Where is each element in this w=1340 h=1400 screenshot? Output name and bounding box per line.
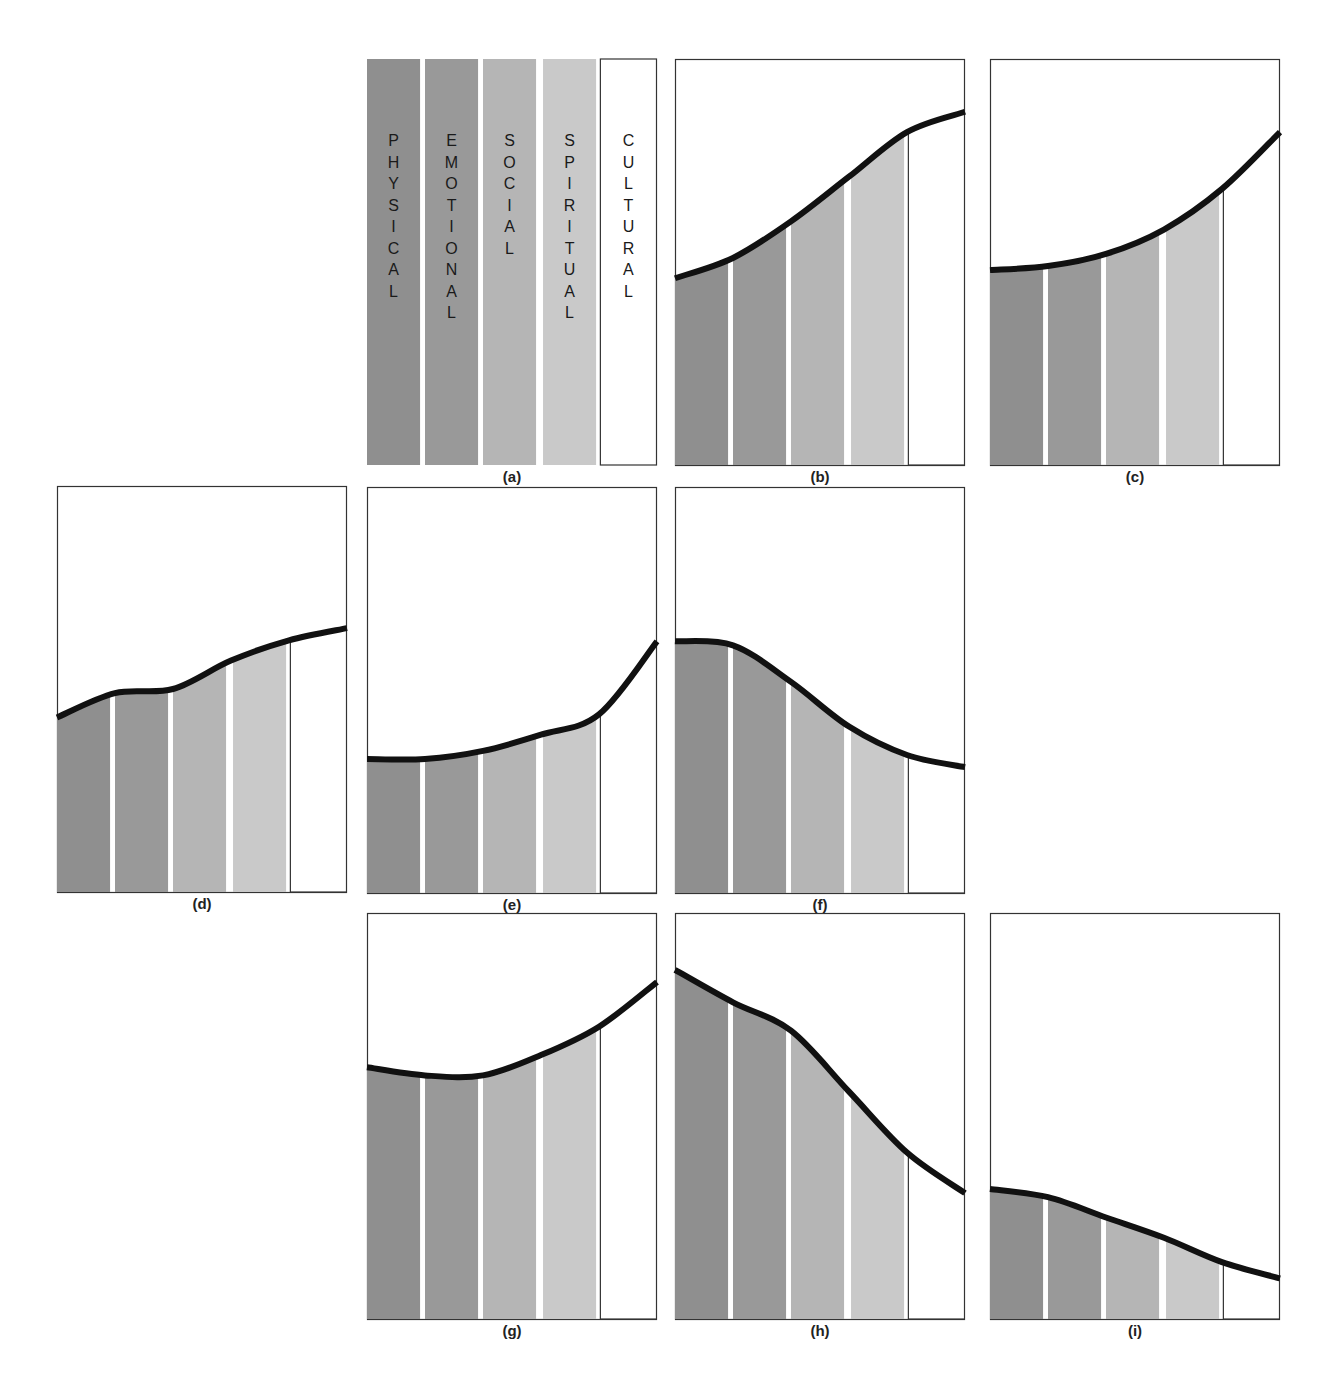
column-social-letter: L bbox=[505, 240, 514, 257]
column-social bbox=[791, 913, 844, 1319]
column-cultural-letter: L bbox=[624, 283, 633, 300]
column-cultural bbox=[1223, 59, 1279, 465]
column-emotional-letter: O bbox=[445, 175, 457, 192]
column-physical bbox=[57, 486, 110, 892]
panel-label-e: (e) bbox=[503, 896, 521, 913]
column-emotional bbox=[425, 913, 478, 1319]
column-cultural-letter: L bbox=[624, 175, 633, 192]
panel-c: (c) bbox=[990, 59, 1280, 485]
column-physical bbox=[367, 487, 420, 893]
column-spiritual bbox=[851, 59, 904, 465]
column-spiritual-letter: I bbox=[567, 175, 571, 192]
column-spiritual bbox=[851, 913, 904, 1319]
panel-a: PHYSICALEMOTIONALSOCIALSPIRITUALCULTURAL… bbox=[367, 59, 657, 485]
column-emotional bbox=[733, 59, 786, 465]
column-cultural bbox=[290, 486, 346, 892]
column-cultural-letter: T bbox=[624, 197, 634, 214]
column-cultural bbox=[600, 913, 656, 1319]
column-emotional-letter: T bbox=[447, 197, 457, 214]
column-physical-letter: L bbox=[389, 283, 398, 300]
column-spiritual-letter: S bbox=[564, 132, 575, 149]
panel-e: (e) bbox=[367, 487, 657, 913]
panel-label-b: (b) bbox=[810, 468, 829, 485]
column-cultural bbox=[1223, 913, 1279, 1319]
column-social bbox=[791, 59, 844, 465]
panel-f: (f) bbox=[675, 487, 965, 913]
column-physical-letter: A bbox=[388, 261, 399, 278]
column-spiritual bbox=[543, 487, 596, 893]
column-emotional bbox=[733, 913, 786, 1319]
panel-d: (d) bbox=[57, 486, 347, 912]
column-social-letter: C bbox=[504, 175, 516, 192]
panel-b: (b) bbox=[675, 59, 965, 485]
column-physical-letter: S bbox=[388, 197, 399, 214]
column-cultural bbox=[600, 487, 656, 893]
column-social-letter: I bbox=[507, 197, 511, 214]
panel-label-f: (f) bbox=[813, 896, 828, 913]
column-emotional-letter: N bbox=[446, 261, 458, 278]
column-cultural-letter: U bbox=[623, 154, 635, 171]
column-emotional-letter: L bbox=[447, 304, 456, 321]
column-emotional bbox=[733, 487, 786, 893]
column-physical-letter: C bbox=[388, 240, 400, 257]
panel-label-h: (h) bbox=[810, 1322, 829, 1339]
column-physical bbox=[990, 59, 1043, 465]
column-cultural bbox=[908, 487, 964, 893]
column-cultural-letter: R bbox=[623, 240, 635, 257]
column-social bbox=[483, 913, 536, 1319]
column-physical-letter: Y bbox=[388, 175, 399, 192]
panel-label-g: (g) bbox=[502, 1322, 521, 1339]
column-social-letter: S bbox=[504, 132, 515, 149]
column-physical-letter: H bbox=[388, 154, 400, 171]
column-cultural bbox=[908, 913, 964, 1319]
column-physical bbox=[990, 913, 1043, 1319]
column-social bbox=[1106, 913, 1159, 1319]
column-physical-letter: P bbox=[388, 132, 399, 149]
panel-label-i: (i) bbox=[1128, 1322, 1142, 1339]
column-social-letter: O bbox=[503, 154, 515, 171]
column-emotional-letter: A bbox=[446, 283, 457, 300]
column-emotional-letter: M bbox=[445, 154, 458, 171]
column-social bbox=[1106, 59, 1159, 465]
column-physical-letter: I bbox=[391, 218, 395, 235]
health-dimensions-figure: PHYSICALEMOTIONALSOCIALSPIRITUALCULTURAL… bbox=[0, 0, 1340, 1400]
panel-label-c: (c) bbox=[1126, 468, 1144, 485]
column-spiritual-letter: T bbox=[565, 240, 575, 257]
column-cultural-letter: C bbox=[623, 132, 635, 149]
column-cultural-letter: A bbox=[623, 261, 634, 278]
column-emotional-letter: O bbox=[445, 240, 457, 257]
panel-i: (i) bbox=[990, 913, 1280, 1339]
column-social-letter: A bbox=[504, 218, 515, 235]
column-social bbox=[483, 59, 536, 465]
panel-h: (h) bbox=[675, 913, 965, 1339]
column-emotional-letter: I bbox=[449, 218, 453, 235]
column-social bbox=[483, 487, 536, 893]
column-spiritual-letter: I bbox=[567, 218, 571, 235]
panel-g: (g) bbox=[367, 913, 657, 1339]
column-emotional bbox=[425, 487, 478, 893]
panel-label-d: (d) bbox=[192, 895, 211, 912]
column-spiritual bbox=[1166, 59, 1219, 465]
column-emotional bbox=[1048, 913, 1101, 1319]
column-emotional-letter: E bbox=[446, 132, 457, 149]
column-spiritual-letter: L bbox=[565, 304, 574, 321]
column-physical bbox=[367, 913, 420, 1319]
column-spiritual-letter: U bbox=[564, 261, 576, 278]
column-physical bbox=[675, 487, 728, 893]
panel-label-a: (a) bbox=[503, 468, 521, 485]
column-spiritual-letter: A bbox=[564, 283, 575, 300]
column-spiritual bbox=[851, 487, 904, 893]
column-spiritual bbox=[233, 486, 286, 892]
column-spiritual-letter: P bbox=[564, 154, 575, 171]
column-spiritual bbox=[543, 913, 596, 1319]
column-cultural-letter: U bbox=[623, 218, 635, 235]
column-spiritual-letter: R bbox=[564, 197, 576, 214]
